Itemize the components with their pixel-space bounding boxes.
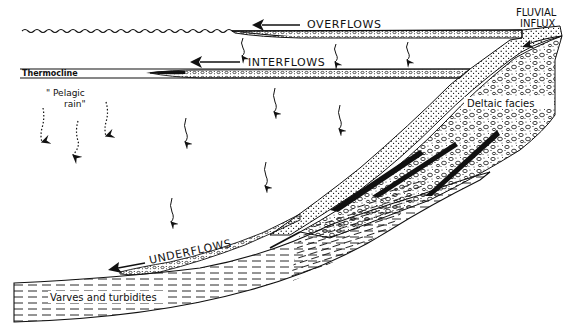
pelagic-arrow-dotted — [73, 121, 78, 155]
settling-arrow-wavy — [339, 105, 342, 129]
label-rain: rain" — [64, 99, 86, 109]
settling-arrow-wavy — [185, 118, 188, 142]
settling-arrow-wavy — [171, 198, 174, 222]
pelagic-arrow-dotted — [105, 102, 108, 136]
label-deltaic-facies: Deltaic facies — [467, 98, 534, 109]
settling-arrow-wavy — [242, 38, 245, 56]
label-thermocline: Thermocline — [22, 69, 78, 78]
label-influx: INFLUX — [520, 18, 556, 29]
pelagic-rain-arrows — [41, 102, 108, 155]
label-pelagic: " Pelagic — [46, 88, 85, 98]
label-fluvial: FLUVIAL — [516, 7, 557, 18]
water-surface-wavy-line — [22, 30, 232, 33]
settling-arrow-wavy — [407, 42, 410, 60]
label-interflows: INTERFLOWS — [248, 56, 325, 69]
lake-sedimentation-diagram: OVERFLOWS INTERFLOWS FLUVIAL INFLUX Ther… — [0, 0, 573, 333]
interflow-layer — [146, 69, 470, 78]
interflows-arrow — [190, 56, 240, 68]
overflows-arrow — [252, 19, 300, 31]
settling-arrow-wavy — [274, 88, 277, 112]
label-overflows: OVERFLOWS — [307, 18, 382, 31]
overflow-layer — [232, 30, 522, 38]
label-varves-and-turbidites: Varves and turbidites — [50, 292, 157, 303]
settling-arrow-wavy — [335, 44, 338, 62]
pelagic-arrow-dotted — [41, 108, 44, 142]
settling-arrow-wavy — [265, 162, 268, 186]
